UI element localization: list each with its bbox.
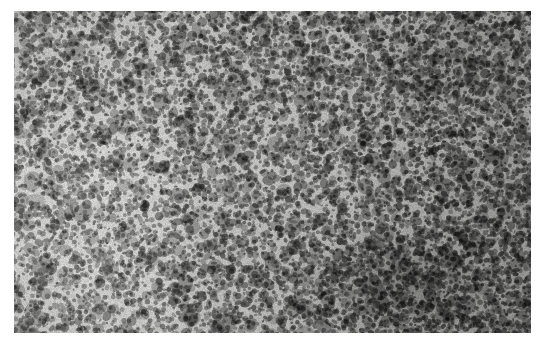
scan-vignette <box>14 11 531 333</box>
cellularity-density-map-secondary <box>14 11 531 333</box>
film-grain <box>14 11 531 333</box>
nuclei-mid-stipple <box>14 11 531 333</box>
page-root <box>0 0 547 350</box>
nuclei-coarse-stipple <box>14 11 531 333</box>
micrograph-image <box>14 11 531 333</box>
tissue-base-tone <box>14 11 531 333</box>
cellularity-density-map <box>14 11 531 333</box>
nuclei-fine-stipple <box>14 11 531 333</box>
